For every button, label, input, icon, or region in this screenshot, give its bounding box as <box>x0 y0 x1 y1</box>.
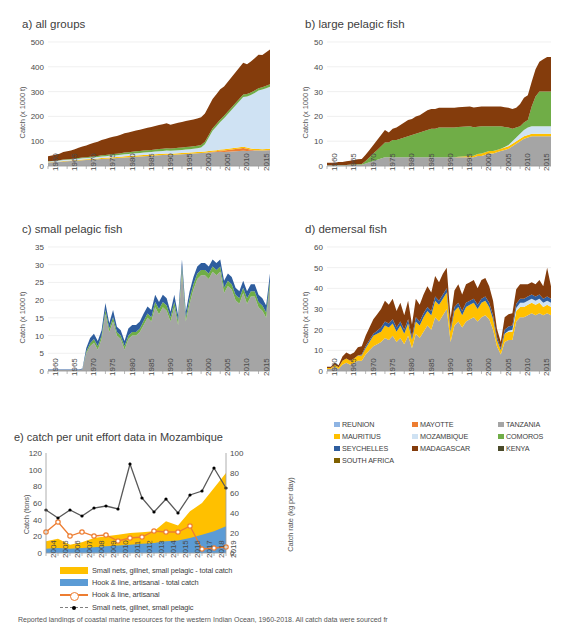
x-tick-label: 1980 <box>407 153 416 171</box>
y-tick-label: 25 <box>18 278 44 287</box>
x-tick-label: 1980 <box>128 358 137 376</box>
e-y-tick-right: 20 <box>230 529 252 538</box>
e-legend-line-icon <box>60 591 88 598</box>
legend-label: TANZANIA <box>506 420 540 429</box>
legend-label: MAURITIUS <box>342 432 381 441</box>
legend-item-kenya: KENYA <box>498 444 562 453</box>
legend-swatch-icon <box>498 446 504 452</box>
e-legend-label: Hook & line, artisanal - total catch <box>92 578 199 587</box>
e-legend-item-1: Hook & line, artisanal - total catch <box>60 578 310 587</box>
legend-label: MADAGASCAR <box>420 444 470 453</box>
x-tick-label: 2010 <box>242 358 251 376</box>
legend-swatch-icon <box>498 434 504 440</box>
e-marker <box>164 530 168 534</box>
e-y-tick-right: 100 <box>230 449 252 458</box>
x-tick-label: 2015 <box>542 358 551 376</box>
y-tick-label: 300 <box>18 87 44 96</box>
e-marker <box>188 493 191 496</box>
e-marker <box>140 535 144 539</box>
y-tick-label: 30 <box>18 260 44 269</box>
x-tick-label: 2000 <box>484 358 493 376</box>
x-tick-label: 1980 <box>407 358 416 376</box>
x-tick-label: 1995 <box>185 358 194 376</box>
legend-label: COMOROS <box>506 432 543 441</box>
e-y-tick-left: 120 <box>18 449 42 458</box>
legend-item-seychelles: SEYCHELLES <box>334 444 412 453</box>
x-tick-label: 1965 <box>349 153 358 171</box>
legend-swatch-icon <box>412 434 418 440</box>
panel-b-large-pelagic: b) large pelagic fish Catch (x 1000 t) 0… <box>283 0 563 205</box>
y-tick-label: 10 <box>297 137 323 146</box>
y-tick-label: 30 <box>297 87 323 96</box>
e-legend-marker-icon <box>70 592 79 601</box>
panel-d-chart: 0102030405060196019651970197519801985199… <box>283 205 563 410</box>
x-tick-label: 1965 <box>70 358 79 376</box>
e-marker <box>116 507 119 510</box>
e-x-tick-label: 2008 <box>97 540 106 558</box>
e-x-tick-label: 2004 <box>49 540 58 558</box>
x-tick-label: 1985 <box>147 153 156 171</box>
e-y-tick-right: 80 <box>230 469 252 478</box>
legend-item-mauritius: MAURITIUS <box>334 432 412 441</box>
e-legend-label: Hook & line, artisanal <box>92 590 160 599</box>
y-tick-label: 15 <box>18 313 44 322</box>
x-tick-label: 1990 <box>166 153 175 171</box>
legend-item-comoros: COMOROS <box>498 432 562 441</box>
legend-swatch-icon <box>334 434 340 440</box>
x-tick-label: 1970 <box>89 153 98 171</box>
x-tick-label: 1995 <box>185 153 194 171</box>
x-tick-label: 1970 <box>369 153 378 171</box>
y-tick-label: 0 <box>18 162 44 171</box>
e-y-tick-left: 20 <box>18 532 42 541</box>
x-tick-label: 2015 <box>542 153 551 171</box>
x-tick-label: 1975 <box>388 153 397 171</box>
x-tick-label: 1985 <box>427 153 436 171</box>
x-tick-label: 1990 <box>446 153 455 171</box>
legend-item-mayotte: MAYOTTE <box>412 420 498 429</box>
e-legend-label: Small nets, gillnet, small pelagic <box>92 603 193 612</box>
legend-swatch-icon <box>412 422 418 428</box>
panel-b-chart: 0102030405019601965197019751980198519901… <box>283 0 563 205</box>
x-tick-label: 1960 <box>51 153 60 171</box>
plot-area <box>0 0 285 205</box>
x-tick-label: 1960 <box>330 358 339 376</box>
y-tick-label: 200 <box>18 112 44 121</box>
e-legend-line-icon <box>60 604 88 611</box>
e-x-tick-label: 2015 <box>181 540 190 558</box>
area-series-tanzania <box>48 272 270 371</box>
e-y-tick-left: 0 <box>18 549 42 558</box>
e-y-tick-left: 60 <box>18 499 42 508</box>
e-y-tick-left: 100 <box>18 465 42 474</box>
e-legend-item-0: Small nets, gillnet, small pelagic - tot… <box>60 566 310 575</box>
legend-swatch-icon <box>334 458 340 464</box>
panel-e-legend: Small nets, gillnet, small pelagic - tot… <box>60 566 310 615</box>
y-tick-label: 30 <box>297 305 323 314</box>
x-tick-label: 1985 <box>427 358 436 376</box>
e-x-tick-label: 2007 <box>85 540 94 558</box>
e-x-tick-label: 2006 <box>73 540 82 558</box>
e-marker <box>68 508 71 511</box>
e-marker <box>56 520 60 524</box>
x-tick-label: 1965 <box>349 358 358 376</box>
x-tick-label: 2010 <box>523 358 532 376</box>
legend-item-tanzania: TANZANIA <box>498 420 562 429</box>
y-tick-label: 5 <box>18 349 44 358</box>
e-x-tick-label: 2013 <box>157 540 166 558</box>
x-tick-label: 1960 <box>51 358 60 376</box>
x-tick-label: 2010 <box>523 153 532 171</box>
e-x-tick-label: 2019 <box>229 540 238 558</box>
x-tick-label: 1975 <box>388 358 397 376</box>
legend-swatch-icon <box>334 446 340 452</box>
e-marker <box>80 514 83 517</box>
e-x-tick-label: 2009 <box>109 540 118 558</box>
x-tick-label: 2005 <box>504 153 513 171</box>
legend-swatch-icon <box>412 446 418 452</box>
legend-item-south-africa: SOUTH AFRICA <box>334 456 412 465</box>
plot-area <box>283 0 563 205</box>
e-marker <box>104 504 107 507</box>
x-tick-label: 2015 <box>262 358 271 376</box>
x-tick-label: 2010 <box>242 153 251 171</box>
plot-area <box>0 205 285 410</box>
e-legend-marker-icon <box>72 606 76 610</box>
y-tick-label: 35 <box>18 243 44 252</box>
